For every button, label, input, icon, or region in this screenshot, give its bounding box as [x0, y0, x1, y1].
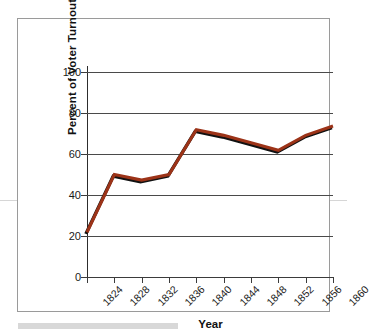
series-line-shadow [86, 128, 332, 234]
plot-area [87, 72, 333, 277]
x-tick-label-1860: 1860 [346, 283, 371, 308]
x-tick-label-1844: 1844 [236, 283, 261, 308]
x-tick-label-1852: 1852 [291, 283, 316, 308]
x-axis-tick-labels: 1824182818321836184018441848185218561860 [87, 283, 334, 317]
y-tick-label-20: 20 [69, 230, 81, 242]
y-axis-title: Percent of Voter Turnout [66, 0, 78, 162]
y-tick-label-40: 40 [69, 189, 81, 201]
x-tick-label-1832: 1832 [154, 283, 179, 308]
figure-frame: 100 80 60 40 20 0 Percent of Voter Turno… [17, 18, 330, 312]
voter-turnout-line-series [87, 72, 333, 277]
x-tick-label-1840: 1840 [209, 283, 234, 308]
x-tick-label-1856: 1856 [318, 283, 343, 308]
x-tick-label-1828: 1828 [127, 283, 152, 308]
x-tick-label-1848: 1848 [264, 283, 289, 308]
page-caption-strip [18, 323, 178, 329]
x-tick-label-1824: 1824 [100, 283, 125, 308]
x-tick-label-1836: 1836 [182, 283, 207, 308]
